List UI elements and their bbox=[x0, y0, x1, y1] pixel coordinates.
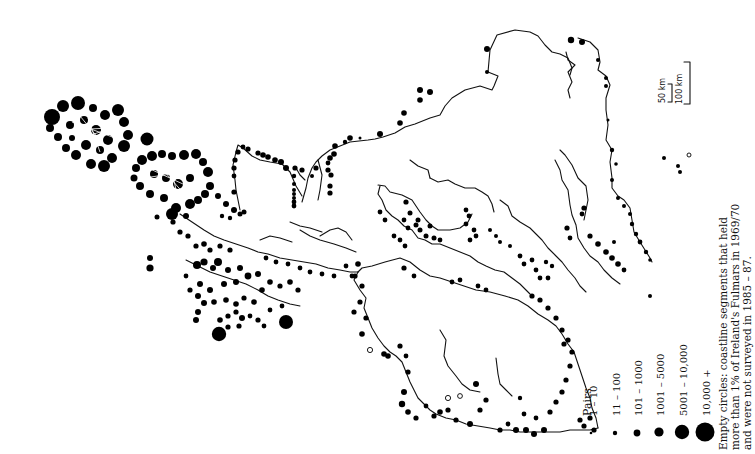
scale-label-50km: 50 km bbox=[658, 78, 667, 103]
west-colony-cluster bbox=[131, 149, 243, 220]
note-line-1: Empty circles: coastline segments that h… bbox=[718, 217, 730, 450]
scale-label-100km: 100 km bbox=[675, 74, 684, 104]
legend-label-2: 11 – 100 bbox=[611, 373, 622, 416]
note-line-2: more than 1% of Ireland's Fulmars in 196… bbox=[730, 204, 742, 450]
legend-label-6: 10,000 + bbox=[701, 369, 712, 416]
legend-label-5: 5001 – 10,000 bbox=[678, 344, 689, 416]
legend-label-4: 1001 – 5000 bbox=[655, 354, 666, 416]
legend-label-1: 1 – 10 bbox=[588, 386, 599, 416]
legend-symbols bbox=[590, 423, 715, 442]
legend-label-3: 101 – 1000 bbox=[633, 360, 644, 416]
coastline bbox=[180, 30, 652, 432]
coastal-colonies bbox=[146, 37, 691, 437]
note-line-3: and were not surveyed in 1985 – 87. bbox=[742, 256, 754, 450]
